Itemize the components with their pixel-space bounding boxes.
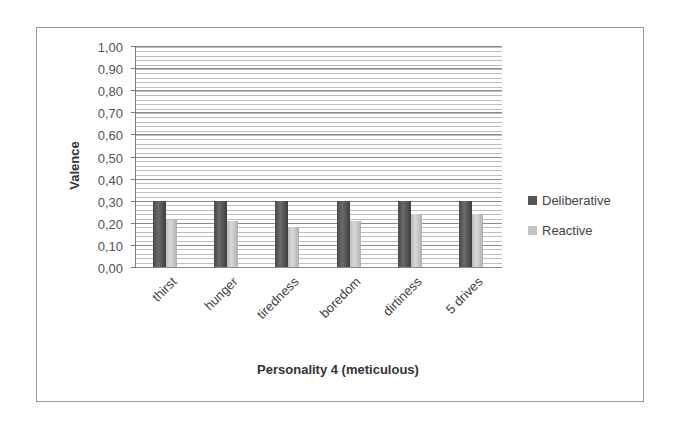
y-tick (131, 134, 136, 135)
plot-area (135, 47, 502, 268)
y-tick-label: 0,20 (73, 216, 123, 231)
y-tick-label: 0,80 (73, 84, 123, 99)
y-tick (131, 201, 136, 202)
bar-reactive-thirst (166, 220, 177, 268)
bar-deliberative-dirtiness (398, 201, 411, 267)
bar-reactive-dirtiness (411, 214, 422, 267)
legend-item-reactive: Reactive (528, 223, 593, 238)
legend-swatch-deliberative (528, 196, 537, 205)
y-tick-label: 0,60 (73, 128, 123, 143)
gridline-major (136, 46, 502, 47)
bar-deliberative-5-drives (459, 201, 472, 267)
y-tick-label: 0,50 (73, 150, 123, 165)
gridline-major (136, 157, 502, 158)
y-tick (131, 179, 136, 180)
gridline-major (136, 223, 502, 224)
legend-item-deliberative: Deliberative (528, 193, 611, 208)
bar-reactive-boredom (350, 221, 361, 267)
gridline-major (136, 245, 502, 246)
gridline-major (136, 179, 502, 180)
gridline-major (136, 201, 502, 202)
gridline-major (136, 267, 502, 268)
y-tick-label: 1,00 (73, 40, 123, 55)
y-tick-label: 0,40 (73, 172, 123, 187)
y-tick-label: 0,00 (73, 261, 123, 276)
y-tick-label: 0,10 (73, 238, 123, 253)
y-tick (131, 46, 136, 47)
bar-deliberative-hunger (214, 201, 227, 267)
legend-label-deliberative: Deliberative (542, 193, 611, 208)
y-tick (131, 267, 136, 268)
y-tick (131, 112, 136, 113)
gridline-major (136, 134, 502, 135)
bar-deliberative-thirst (153, 201, 166, 267)
y-tick (131, 90, 136, 91)
bar-deliberative-boredom (337, 201, 350, 267)
y-tick-label: 0,70 (73, 106, 123, 121)
gridline-major (136, 68, 502, 69)
gridline-major (136, 112, 502, 113)
y-tick (131, 157, 136, 158)
y-tick (131, 223, 136, 224)
bar-reactive-hunger (227, 221, 238, 267)
gridline-major (136, 90, 502, 91)
legend-label-reactive: Reactive (542, 223, 593, 238)
y-tick (131, 245, 136, 246)
y-tick-label: 0,30 (73, 194, 123, 209)
y-tick (131, 68, 136, 69)
bar-reactive-tiredness (288, 227, 299, 267)
bar-deliberative-tiredness (275, 201, 288, 267)
y-tick-label: 0,90 (73, 62, 123, 77)
x-axis-title: Personality 4 (meticulous) (0, 362, 676, 377)
bar-reactive-5-drives (472, 214, 483, 267)
legend-swatch-reactive (528, 226, 537, 235)
